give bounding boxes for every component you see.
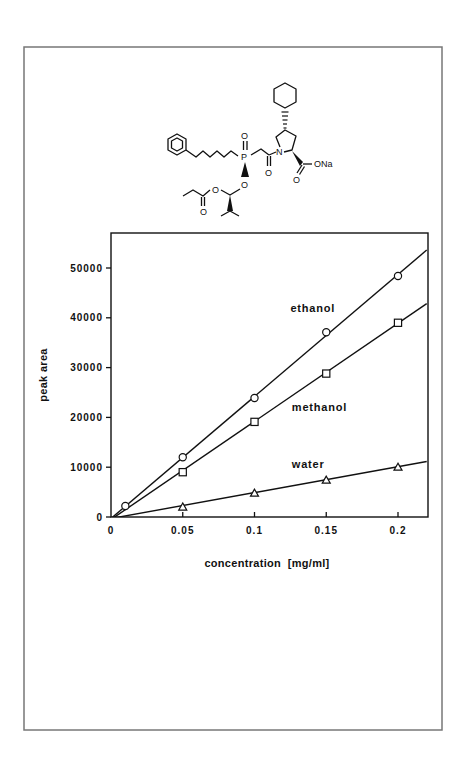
- fit-line-methanol: [111, 304, 427, 520]
- atom-labels: O P O N O ONa O O O: [200, 131, 333, 217]
- circle-marker: [251, 394, 258, 401]
- x-tick-label: 0.1: [246, 525, 263, 536]
- atom-o-acetal: O: [212, 185, 219, 195]
- y-axis-title: peak area: [37, 348, 49, 402]
- y-tick-label: 0: [96, 512, 103, 523]
- benzene-inner-ring: [172, 138, 183, 151]
- circle-marker: [323, 329, 330, 336]
- fit-line-water: [111, 462, 427, 519]
- y-tick-label: 50000: [70, 263, 103, 274]
- atom-o-ester: O: [200, 207, 207, 217]
- cyclohexane-ring: [274, 83, 296, 108]
- alkyl-chain: [186, 150, 238, 157]
- square-marker: [323, 370, 330, 377]
- atom-o-amide: O: [265, 168, 272, 178]
- x-axis-title: concentration [mg/ml]: [204, 557, 329, 569]
- fit-line-ethanol: [111, 250, 427, 518]
- x-tick-label: 0.05: [171, 525, 194, 536]
- y-tick-label: 10000: [70, 462, 103, 473]
- atom-o-carboxyl: O: [293, 175, 300, 185]
- atom-p: P: [241, 152, 247, 162]
- outer-frame: [24, 47, 442, 730]
- series-label-ethanol: ethanol: [290, 302, 335, 314]
- circle-marker: [179, 454, 186, 461]
- y-axis: 01000020000300004000050000: [70, 263, 111, 523]
- atom-n: N: [276, 147, 283, 157]
- y-tick-label: 40000: [70, 312, 103, 323]
- x-tick-label: 0.2: [390, 525, 407, 536]
- plot: 01000020000300004000050000 00.050.10.150…: [37, 233, 428, 569]
- square-marker: [179, 469, 186, 476]
- series-labels: ethanolmethanolwater: [290, 302, 347, 470]
- benzene-ring: [168, 134, 186, 155]
- square-marker: [251, 418, 258, 425]
- series-label-methanol: methanol: [292, 401, 347, 413]
- plot-area: [111, 233, 428, 517]
- circle-marker: [122, 502, 129, 509]
- fit-lines: [111, 250, 427, 519]
- square-marker: [394, 319, 401, 326]
- x-axis: 00.050.10.150.2: [108, 512, 407, 536]
- series-label-water: water: [291, 458, 325, 470]
- circle-marker: [394, 272, 401, 279]
- x-tick-label: 0: [108, 525, 115, 536]
- wedge-bonds: [227, 151, 303, 211]
- y-tick-label: 20000: [70, 412, 103, 423]
- y-tick-label: 30000: [70, 362, 103, 373]
- atom-o-phosphinate: O: [241, 180, 248, 190]
- figure: O P O N O ONa O O O 01000020000300004000…: [0, 0, 466, 765]
- x-tick-label: 0.15: [315, 525, 338, 536]
- hashed-bond: [282, 112, 289, 128]
- atom-ona: ONa: [314, 159, 333, 169]
- atom-o-phosphoryl: O: [241, 131, 248, 141]
- chemical-structure: [168, 83, 312, 216]
